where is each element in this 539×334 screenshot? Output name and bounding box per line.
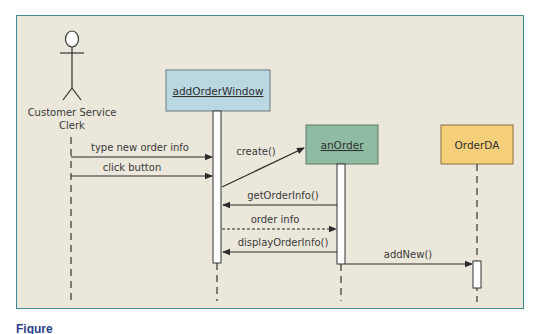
actor-head-icon: [66, 31, 79, 47]
object-orderda: OrderDA: [441, 125, 513, 164]
object-label-orderda: OrderDA: [455, 139, 501, 151]
actor-label-line1: Customer Service: [28, 107, 117, 118]
svg-text:displayOrderInfo(): displayOrderInfo(): [238, 237, 329, 248]
svg-text:addNew(): addNew(): [384, 249, 433, 260]
message-displayorderinfo: displayOrderInfo(): [223, 237, 337, 252]
message-create: create(): [222, 146, 304, 187]
actor-label-line2: Clerk: [59, 120, 85, 131]
svg-text:getOrderInfo(): getOrderInfo(): [247, 190, 319, 201]
message-addnew: addNew(): [345, 249, 472, 264]
object-label-anorder: anOrder: [321, 139, 365, 151]
message-click-button: click button: [71, 162, 212, 176]
svg-text:create(): create(): [236, 146, 276, 157]
svg-text:type new order info: type new order info: [91, 142, 189, 153]
message-type-new-order-info: type new order info: [71, 142, 212, 157]
activation-orderda: [473, 261, 481, 288]
object-label-addorderwindow: addOrderWindow: [172, 85, 263, 97]
figure-caption: Figure: [16, 322, 53, 334]
svg-text:order info: order info: [251, 214, 300, 225]
message-order-info: order info: [222, 214, 336, 229]
svg-text:click button: click button: [103, 162, 162, 173]
message-getorderinfo: getOrderInfo(): [223, 190, 337, 205]
object-addorderwindow: addOrderWindow: [166, 70, 270, 111]
actor-customer-service-clerk: Customer Service Clerk: [28, 31, 117, 131]
object-anorder: anOrder: [306, 125, 378, 164]
activation-addorderwindow: [213, 111, 221, 263]
activation-anorder: [337, 164, 345, 264]
